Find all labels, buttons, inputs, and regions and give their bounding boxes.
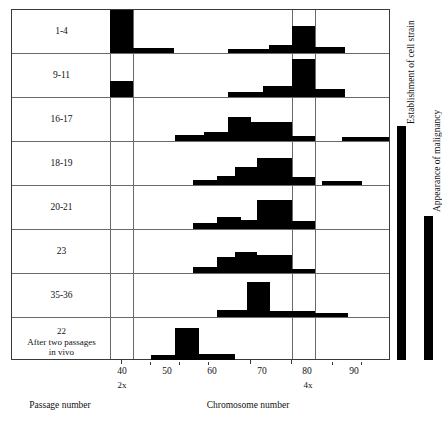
histogram-row: 23 xyxy=(12,230,389,273)
bar xyxy=(315,89,345,97)
appearance-of-malignancy-bar xyxy=(424,216,433,360)
bar xyxy=(151,355,175,360)
bar xyxy=(235,252,257,273)
x-axis-title: Chromosome number xyxy=(207,400,290,410)
histogram-row: 22 After two passages in vivo xyxy=(12,318,389,360)
bar xyxy=(217,176,235,185)
appearance-of-malignancy-label: Appearance of malignancy xyxy=(432,100,443,212)
bar xyxy=(263,86,292,97)
bar xyxy=(175,328,199,360)
x-tick-label-60: 60 xyxy=(207,366,217,376)
row-label: 1-4 xyxy=(12,26,111,37)
axis-tick xyxy=(332,362,333,365)
bar xyxy=(292,26,315,53)
chromosome-number-figure: 1-4 9-11 16-17 xyxy=(0,0,448,428)
row-label: 16-17 xyxy=(12,114,111,125)
axis-tick xyxy=(361,362,362,365)
y-axis-title: Passage number xyxy=(29,400,90,410)
bar xyxy=(292,59,315,97)
bar xyxy=(292,221,315,229)
row-label: 9-11 xyxy=(12,70,111,81)
bar xyxy=(257,200,292,229)
bar xyxy=(204,132,228,141)
bar xyxy=(110,81,133,97)
bar xyxy=(292,177,315,185)
bar xyxy=(199,354,235,360)
x-tick-label-80: 80 xyxy=(302,366,312,376)
plot-area: 1-4 9-11 16-17 xyxy=(11,9,390,360)
establishment-of-cell-strain-bar xyxy=(397,126,406,360)
x-tick-label-40: 40 xyxy=(117,366,127,376)
row-label: 22 After two passages in vivo xyxy=(12,326,111,358)
histogram-row: 35-36 xyxy=(12,274,389,317)
bar xyxy=(247,282,270,317)
row-label: 23 xyxy=(12,246,111,257)
x-tick-label-90: 90 xyxy=(349,366,359,376)
histogram-row: 1-4 xyxy=(12,10,389,53)
axis-tick xyxy=(291,360,292,364)
histogram-row: 20-21 xyxy=(12,186,389,229)
row-label: 35-36 xyxy=(12,290,111,301)
bar xyxy=(110,10,133,53)
bar xyxy=(235,167,257,185)
axis-tick xyxy=(250,360,251,364)
bar xyxy=(241,220,257,229)
bar xyxy=(257,255,292,273)
axis-tick xyxy=(179,362,180,365)
histogram-row: 16-17 xyxy=(12,98,389,141)
bar xyxy=(217,217,241,229)
row-label-line3: in vivo xyxy=(12,347,111,358)
row-label-line1: 22 xyxy=(12,326,111,337)
bar xyxy=(228,117,251,141)
bar xyxy=(269,45,292,53)
axis-tick xyxy=(208,362,209,365)
histogram-row: 9-11 xyxy=(12,54,389,97)
axis-tick xyxy=(150,362,151,365)
x-tick-label-70: 70 xyxy=(257,366,267,376)
x-tick-label-50: 50 xyxy=(162,366,172,376)
ploidy-label-2x: 2x xyxy=(118,380,127,390)
bar xyxy=(257,158,292,185)
axis-tick xyxy=(121,360,122,364)
row-label: 20-21 xyxy=(12,202,111,213)
bar xyxy=(217,310,247,317)
row-label-line2: After two passages xyxy=(12,337,111,348)
establishment-of-cell-strain-label: Establishment of cell strain xyxy=(406,12,417,124)
ploidy-label-4x: 4x xyxy=(304,380,313,390)
row-label: 18-19 xyxy=(12,158,111,169)
bar xyxy=(217,257,235,273)
histogram-row: 18-19 xyxy=(12,142,389,185)
bar xyxy=(251,122,292,141)
